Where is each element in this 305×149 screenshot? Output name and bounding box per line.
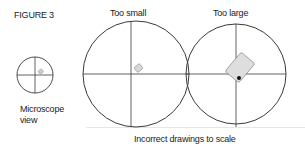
microscope-view-circle <box>17 57 53 93</box>
too-large-circle <box>186 24 286 127</box>
figure-drawing <box>0 0 305 149</box>
too-large-label: Too large <box>213 8 248 18</box>
too-small-label: Too small <box>110 8 146 18</box>
nucleus-dot-icon <box>237 76 241 80</box>
figure-label: FIGURE 3 <box>14 10 54 20</box>
figure-caption: Incorrect drawings to scale <box>134 134 236 144</box>
specimen-icon <box>134 63 143 72</box>
specimen-icon <box>38 69 44 75</box>
microscope-view-label: Microscope view <box>20 104 80 126</box>
microscope-label-line1: Microscope <box>20 104 64 114</box>
microscope-label-line2: view <box>20 115 37 125</box>
too-small-circle <box>83 21 189 127</box>
